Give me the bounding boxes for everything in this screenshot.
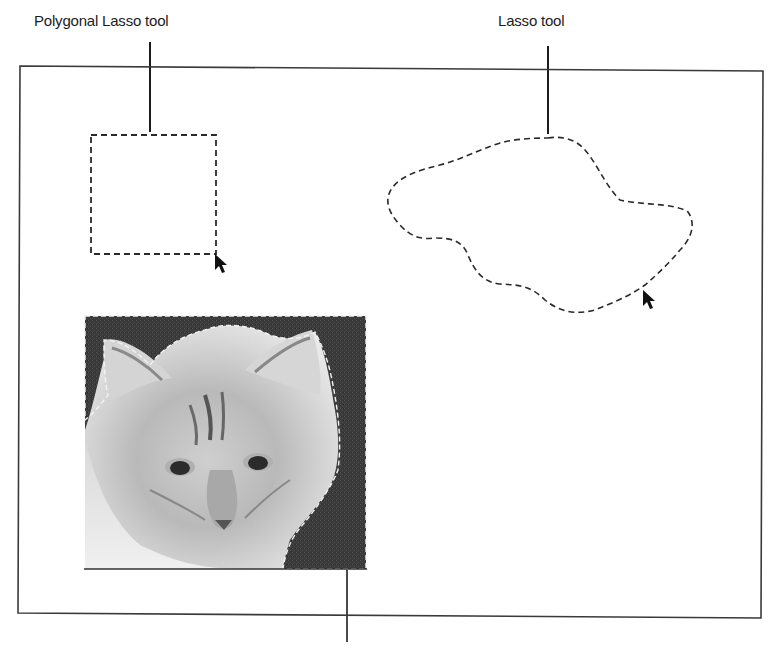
arrow-cursor-icon (643, 290, 655, 309)
lasso-selection (388, 137, 692, 312)
cat-photo (85, 316, 366, 569)
polygonal-lasso-selection (91, 135, 216, 254)
arrow-cursor-icon (215, 254, 227, 273)
